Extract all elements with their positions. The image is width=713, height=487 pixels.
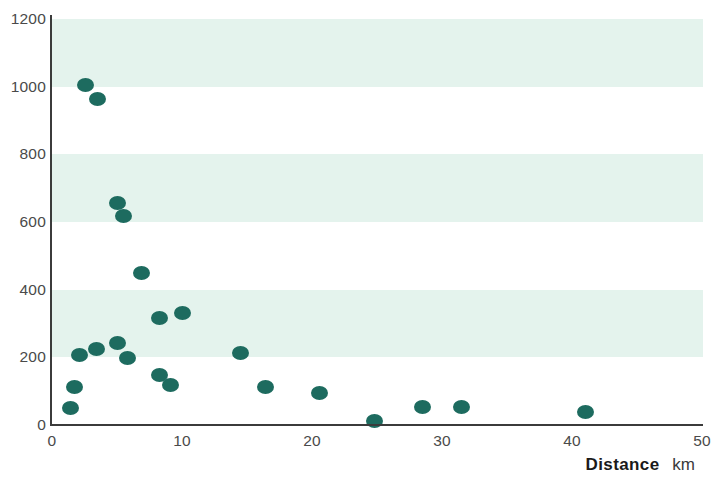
x-axis-title: Distance km xyxy=(586,455,695,475)
x-axis-line xyxy=(50,424,703,426)
data-point xyxy=(71,348,88,362)
data-point xyxy=(109,336,126,350)
x-axis-title-unit: km xyxy=(672,455,695,474)
background-band xyxy=(52,19,703,87)
data-point xyxy=(232,346,249,360)
x-tick-label: 30 xyxy=(433,433,451,449)
x-tick-label: 10 xyxy=(173,433,191,449)
data-point xyxy=(109,196,126,210)
scatter-plot-figure: 020040060080010001200 01020304050 Distan… xyxy=(0,0,713,487)
data-point xyxy=(257,380,274,394)
data-point xyxy=(414,400,431,414)
data-point xyxy=(66,380,83,394)
y-tick-label: 0 xyxy=(2,417,46,433)
data-point xyxy=(62,401,79,415)
data-point xyxy=(88,342,105,356)
y-tick-label: 1200 xyxy=(2,11,46,27)
data-point xyxy=(115,209,132,223)
y-axis-line xyxy=(50,15,52,426)
background-band xyxy=(52,154,703,222)
data-point xyxy=(162,378,179,392)
y-tick-label: 200 xyxy=(2,349,46,365)
x-tick-label: 20 xyxy=(303,433,321,449)
x-axis-tick-labels: 01020304050 xyxy=(0,433,713,457)
data-point xyxy=(77,78,94,92)
y-tick-label: 1000 xyxy=(2,79,46,95)
x-tick-label: 40 xyxy=(563,433,581,449)
data-point xyxy=(133,266,150,280)
data-point xyxy=(89,92,106,106)
data-point xyxy=(453,400,470,414)
background-band xyxy=(52,290,703,358)
data-point xyxy=(577,405,594,419)
data-point xyxy=(119,351,136,365)
data-point xyxy=(174,306,191,320)
x-tick-label: 0 xyxy=(48,433,57,449)
plot-area xyxy=(52,16,703,425)
y-tick-label: 600 xyxy=(2,214,46,230)
x-tick-label: 50 xyxy=(693,433,711,449)
data-point xyxy=(151,311,168,325)
data-point xyxy=(311,386,328,400)
y-tick-label: 800 xyxy=(2,146,46,162)
y-tick-label: 400 xyxy=(2,282,46,298)
y-axis-tick-labels: 020040060080010001200 xyxy=(0,0,46,487)
x-axis-title-name: Distance xyxy=(586,455,660,474)
